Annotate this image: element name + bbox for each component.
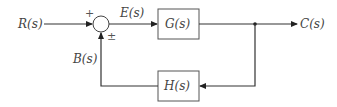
block-diagram: R(s) E(s) G(s) C(s) B(s) H(s) + ±	[0, 0, 337, 107]
input-label: R(s)	[17, 17, 43, 31]
error-label: E(s)	[119, 6, 145, 20]
forward-block-label: G(s)	[165, 17, 190, 31]
feedback-path-to-h	[200, 24, 255, 86]
feedback-block-label: H(s)	[163, 79, 190, 93]
plus-minus-sign: ±	[107, 30, 116, 43]
plus-sign: +	[85, 7, 94, 20]
feedback-label: B(s)	[72, 52, 98, 66]
output-label: C(s)	[300, 17, 325, 31]
